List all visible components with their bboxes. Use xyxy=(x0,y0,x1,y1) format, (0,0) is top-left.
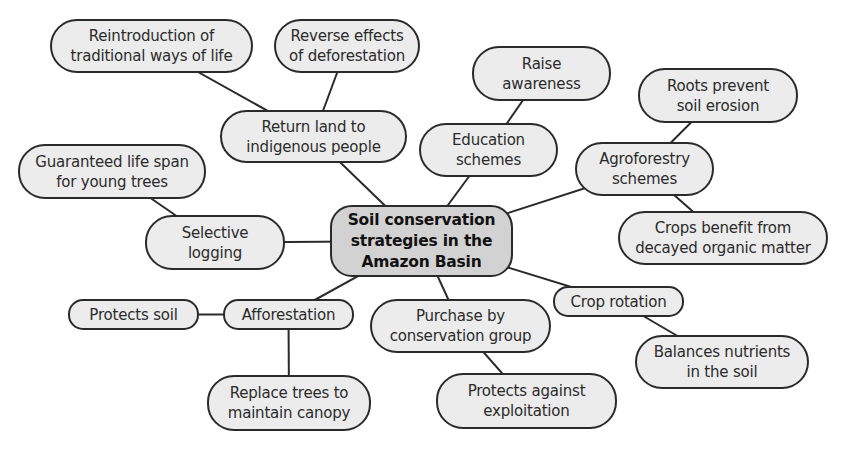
node-education-schemes: Education schemes xyxy=(419,123,558,177)
node-reintroduction: Reintroduction of traditional ways of li… xyxy=(50,19,253,73)
node-crop-rotation: Crop rotation xyxy=(553,286,684,317)
node-protects-soil: Protects soil xyxy=(68,299,199,330)
node-replace-trees: Replace trees to maintain canopy xyxy=(207,375,371,431)
node-balances-nutrients: Balances nutrients in the soil xyxy=(635,335,809,389)
node-agroforestry-schemes: Agroforestry schemes xyxy=(575,142,714,196)
node-roots-prevent: Roots prevent soil erosion xyxy=(638,68,798,123)
central-node: Soil conservation strategies in the Amaz… xyxy=(330,205,513,277)
node-guaranteed-life: Guaranteed life span for young trees xyxy=(18,144,206,199)
node-afforestation: Afforestation xyxy=(223,299,354,330)
node-return-land: Return land to indigenous people xyxy=(220,110,407,163)
node-crops-benefit: Crops benefit from decayed organic matte… xyxy=(618,211,828,265)
node-purchase: Purchase by conservation group xyxy=(370,299,551,353)
mind-map-canvas: Soil conservation strategies in the Amaz… xyxy=(0,0,848,456)
node-selective-logging: Selective logging xyxy=(145,215,285,270)
node-protects-against: Protects against exploitation xyxy=(436,373,617,429)
node-reverse-effects: Reverse effects of deforestation xyxy=(274,19,420,73)
node-raise-awareness: Raise awareness xyxy=(472,46,611,101)
